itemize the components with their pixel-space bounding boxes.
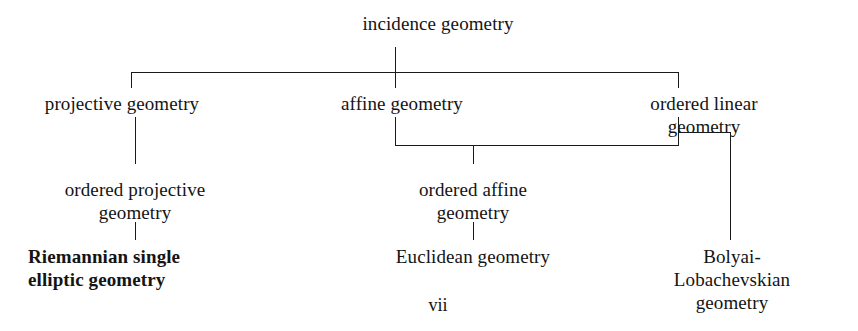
- connector-ordprojective-drop: [135, 222, 136, 240]
- diagram-node-affine: affine geometry: [341, 92, 463, 115]
- connector-rail1-to-affine: [395, 72, 396, 88]
- diagram-node-euclidean: Euclidean geometry: [396, 245, 550, 268]
- connector-tier2-rail: [395, 145, 679, 146]
- diagram-page: incidence geometryprojective geometryaff…: [0, 0, 858, 331]
- diagram-node-incidence: incidence geometry: [362, 12, 513, 35]
- connector-rail1-to-ordlinear: [678, 72, 679, 88]
- connector-ordlinear-branch-h: [679, 132, 731, 133]
- connector-ordaffine-drop: [473, 222, 474, 240]
- diagram-node-projective: projective geometry: [45, 92, 199, 115]
- connector-rail2-to-ordaffine: [473, 145, 474, 164]
- connector-projective-drop: [135, 117, 136, 164]
- connector-tier1-rail: [131, 72, 679, 73]
- page-folio: vii: [428, 295, 447, 316]
- connector-rail1-to-projective: [131, 72, 132, 88]
- diagram-node-ordered-projective: ordered projective geometry: [65, 178, 206, 224]
- diagram-node-bolyai: Bolyai-Lobachevskian geometry: [669, 245, 795, 314]
- connector-bolyai-drop: [730, 132, 731, 240]
- connector-incidence-drop: [395, 47, 396, 72]
- connector-affine-drop: [395, 117, 396, 146]
- diagram-node-riemannian: Riemannian single elliptic geometry: [28, 245, 180, 291]
- diagram-node-ordered-affine: ordered affine geometry: [419, 178, 527, 224]
